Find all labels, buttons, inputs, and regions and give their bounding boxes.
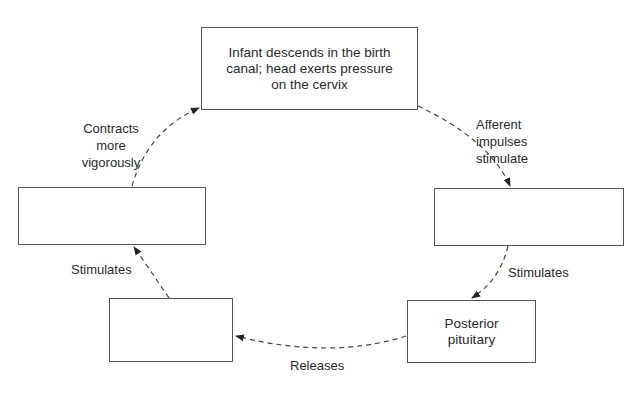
- node-bottom-left-blank: [109, 298, 233, 362]
- node-posterior-pituitary: Posterior pituitary: [407, 300, 536, 363]
- node-infant-descends-text: Infant descends in the birth canal; head…: [224, 45, 395, 93]
- edge-label-stimulates-right: Stimulates: [508, 264, 588, 281]
- node-posterior-pituitary-text: Posterior pituitary: [428, 316, 515, 348]
- node-infant-descends: Infant descends in the birth canal; head…: [201, 27, 418, 110]
- edge-label-contracts-vigorously: Contracts more vigorously: [66, 120, 156, 171]
- edge-label-afferent-impulses: Afferent impulses stimulate: [476, 116, 566, 167]
- node-right-blank: [434, 188, 624, 246]
- edge-label-stimulates-left: Stimulates: [71, 261, 151, 278]
- node-left-blank: [18, 187, 206, 245]
- arrow-right-to-posterior-pituitary: [472, 246, 508, 298]
- edge-label-releases: Releases: [290, 357, 360, 374]
- arrow-posterior-pituitary-to-bottom-left: [236, 336, 406, 348]
